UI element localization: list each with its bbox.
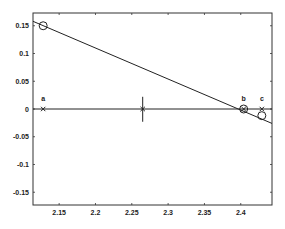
y-tick-label: 0.1	[19, 50, 29, 57]
y-tick-label: -0.05	[13, 133, 29, 140]
y-tick-label: 0	[25, 106, 29, 113]
annotations-layer: abc	[41, 95, 264, 102]
y-tick-label: -0.1	[17, 161, 29, 168]
series-layer	[33, 21, 272, 123]
y-tick-label: 0.15	[15, 22, 29, 29]
y-tick-label: 0.05	[15, 78, 29, 85]
x-axis-ticks: 2.152.22.252.32.352.4	[52, 13, 245, 216]
point-label-c: c	[260, 95, 264, 102]
chart: 2.152.22.252.32.352.4 0.150.10.050-0.05-…	[0, 0, 285, 229]
x-tick-label: 2.3	[163, 209, 173, 216]
series-line	[33, 21, 272, 123]
x-tick-label: 2.2	[91, 209, 101, 216]
x-tick-label: 2.15	[52, 209, 66, 216]
x-tick-label: 2.4	[236, 209, 246, 216]
point-label-b: b	[242, 95, 246, 102]
x-tick-label: 2.35	[198, 209, 212, 216]
y-tick-label: -0.15	[13, 189, 29, 196]
x-tick-label: 2.25	[125, 209, 139, 216]
point-label-a: a	[41, 95, 45, 102]
circle-marker	[258, 112, 266, 120]
